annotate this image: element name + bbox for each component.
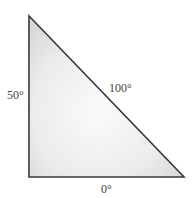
triangle-diagram [0,0,196,198]
left-side-label: 50° [7,89,24,101]
right-triangle [29,16,184,177]
bottom-side-label: 0° [101,183,112,195]
hypotenuse-label: 100° [109,82,132,94]
